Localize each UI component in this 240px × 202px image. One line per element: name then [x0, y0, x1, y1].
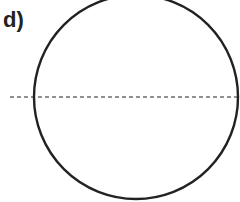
diagram	[0, 0, 240, 202]
circle	[34, 0, 238, 199]
